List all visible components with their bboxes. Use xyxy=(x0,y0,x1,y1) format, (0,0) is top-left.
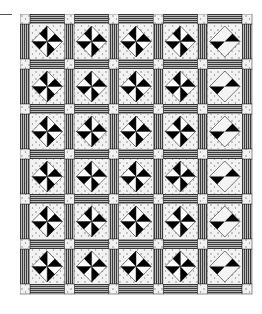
sashing-horizontal xyxy=(74,59,108,69)
cornerstone xyxy=(242,284,252,294)
sashing-horizontal xyxy=(119,59,153,69)
cornerstone xyxy=(242,239,252,249)
cornerstone xyxy=(64,14,74,24)
sashing-vertical xyxy=(242,24,252,59)
cornerstone xyxy=(242,149,252,159)
sashing-vertical xyxy=(64,204,74,239)
cornerstone xyxy=(64,194,74,204)
quilt-grid xyxy=(20,14,252,294)
cornerstone xyxy=(109,284,119,294)
cornerstone xyxy=(198,59,208,69)
sashing-vertical xyxy=(242,69,252,104)
sashing-horizontal xyxy=(30,14,64,24)
cornerstone xyxy=(109,239,119,249)
sashing-horizontal xyxy=(208,284,242,294)
sashing-vertical xyxy=(64,69,74,104)
sashing-horizontal xyxy=(208,194,242,204)
cornerstone xyxy=(242,14,252,24)
sashing-horizontal xyxy=(30,284,64,294)
sashing-horizontal xyxy=(163,284,197,294)
sashing-vertical xyxy=(109,204,119,239)
sashing-vertical xyxy=(242,114,252,149)
sashing-vertical xyxy=(153,24,163,59)
cornerstone xyxy=(153,104,163,114)
sashing-horizontal xyxy=(208,104,242,114)
cornerstone xyxy=(242,59,252,69)
cornerstone xyxy=(198,104,208,114)
sashing-horizontal xyxy=(30,194,64,204)
sashing-horizontal xyxy=(163,149,197,159)
cornerstone xyxy=(109,14,119,24)
cornerstone xyxy=(64,284,74,294)
cornerstone xyxy=(242,194,252,204)
sashing-vertical xyxy=(64,159,74,194)
cornerstone xyxy=(198,149,208,159)
sashing-vertical xyxy=(242,249,252,284)
sashing-horizontal xyxy=(119,14,153,24)
cornerstone xyxy=(20,239,30,249)
sashing-horizontal xyxy=(119,149,153,159)
sashing-vertical xyxy=(109,69,119,104)
sashing-horizontal xyxy=(163,104,197,114)
sashing-vertical xyxy=(20,114,30,149)
sashing-vertical xyxy=(198,204,208,239)
sashing-vertical xyxy=(153,249,163,284)
sashing-vertical xyxy=(20,204,30,239)
cornerstone xyxy=(109,104,119,114)
sashing-horizontal xyxy=(74,239,108,249)
sashing-horizontal xyxy=(208,14,242,24)
sashing-horizontal xyxy=(163,239,197,249)
cornerstone xyxy=(109,194,119,204)
sashing-horizontal xyxy=(30,104,64,114)
cornerstone xyxy=(153,284,163,294)
sashing-horizontal xyxy=(74,284,108,294)
sashing-vertical xyxy=(20,24,30,59)
sashing-horizontal xyxy=(208,239,242,249)
sashing-vertical xyxy=(64,24,74,59)
sashing-horizontal xyxy=(74,104,108,114)
sashing-horizontal xyxy=(74,149,108,159)
cornerstone xyxy=(20,149,30,159)
cornerstone xyxy=(20,284,30,294)
cornerstone xyxy=(198,284,208,294)
cornerstone xyxy=(64,149,74,159)
sashing-vertical xyxy=(242,204,252,239)
sashing-horizontal xyxy=(208,149,242,159)
cornerstone xyxy=(153,14,163,24)
sashing-horizontal xyxy=(163,14,197,24)
sashing-horizontal xyxy=(30,59,64,69)
cornerstone xyxy=(198,239,208,249)
cornerstone xyxy=(198,14,208,24)
cornerstone xyxy=(64,104,74,114)
sashing-vertical xyxy=(198,24,208,59)
sashing-vertical xyxy=(242,159,252,194)
sashing-vertical xyxy=(153,159,163,194)
sashing-horizontal xyxy=(30,149,64,159)
cornerstone xyxy=(64,239,74,249)
sashing-vertical xyxy=(153,204,163,239)
sashing-vertical xyxy=(109,249,119,284)
cornerstone xyxy=(153,59,163,69)
sashing-horizontal xyxy=(163,59,197,69)
margin-rule-line xyxy=(0,14,12,15)
sashing-horizontal xyxy=(119,104,153,114)
cornerstone xyxy=(109,59,119,69)
cornerstone xyxy=(109,149,119,159)
sashing-vertical xyxy=(198,159,208,194)
sashing-vertical xyxy=(64,249,74,284)
cornerstone xyxy=(153,239,163,249)
cornerstone xyxy=(242,104,252,114)
cornerstone xyxy=(153,149,163,159)
sashing-horizontal xyxy=(119,284,153,294)
sashing-vertical xyxy=(198,249,208,284)
sashing-horizontal xyxy=(74,14,108,24)
sashing-vertical xyxy=(153,114,163,149)
cornerstone xyxy=(20,194,30,204)
cornerstone xyxy=(20,59,30,69)
sashing-vertical xyxy=(153,69,163,104)
quilt-pattern xyxy=(20,14,253,296)
sashing-vertical xyxy=(198,69,208,104)
sashing-vertical xyxy=(20,249,30,284)
sashing-horizontal xyxy=(30,239,64,249)
cornerstone xyxy=(198,194,208,204)
